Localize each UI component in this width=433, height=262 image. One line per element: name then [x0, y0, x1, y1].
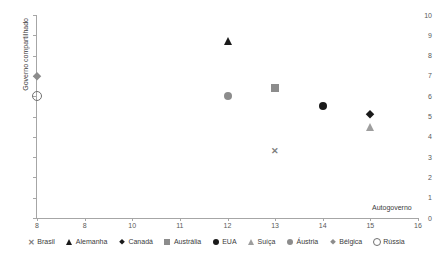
x-tick-label: 13: [260, 222, 290, 229]
y-tick-label: 6: [410, 93, 432, 100]
y-tick-label: 3: [410, 154, 432, 161]
x-axis-label: Autogoverno: [372, 204, 412, 211]
y-tick-mark: [33, 56, 36, 57]
data-point: [224, 37, 232, 45]
triangle-marker-icon: [248, 238, 255, 245]
y-tick-label: 2: [410, 174, 432, 181]
legend-item-label: Rússia: [383, 238, 404, 245]
data-point: [271, 84, 279, 92]
data-point: [32, 91, 42, 101]
x-tick-label: 14: [308, 222, 338, 229]
legend-item[interactable]: Suíça: [248, 238, 276, 245]
y-tick-mark: [33, 157, 36, 158]
legend-item[interactable]: Bélgica: [329, 238, 362, 245]
x-tick-mark: [37, 218, 38, 221]
y-tick-mark: [33, 137, 36, 138]
data-point: ✕: [271, 147, 279, 155]
data-point: [366, 110, 374, 118]
y-tick-mark: [33, 177, 36, 178]
legend-item[interactable]: Canadá: [118, 238, 153, 245]
x-tick-label: 10: [117, 222, 147, 229]
y-axis-label: Governo compartilhado: [22, 18, 29, 91]
legend-item-label: Bélgica: [339, 238, 362, 245]
legend-item[interactable]: Áustria: [286, 238, 318, 245]
triangle-marker-icon: [66, 238, 73, 245]
square-marker-icon: [164, 238, 171, 245]
circle-marker-icon: [286, 238, 293, 245]
chart-legend: ✕BrasilAlemanhaCanadáAustráliaEUASuíçaÁu…: [0, 238, 432, 245]
x-tick-mark: [418, 218, 419, 221]
legend-item[interactable]: ✕Brasil: [27, 238, 55, 245]
x-tick-mark: [180, 218, 181, 221]
legend-item-label: Áustria: [296, 238, 318, 245]
y-tick-mark: [33, 15, 36, 16]
diamond-marker-icon: [118, 238, 125, 245]
y-tick-label: 8: [410, 52, 432, 59]
diamond-marker-icon: [329, 238, 336, 245]
x-tick-label: 8: [22, 222, 52, 229]
y-tick-label: 10: [410, 12, 432, 19]
x-tick-mark: [228, 218, 229, 221]
y-tick-label: 0: [410, 215, 432, 222]
x-tick-label: 8: [70, 222, 100, 229]
y-tick-mark: [33, 218, 36, 219]
y-tick-mark: [33, 198, 36, 199]
circle-marker-icon: [212, 238, 219, 245]
x-tick-mark: [132, 218, 133, 221]
y-tick-label: 1: [410, 194, 432, 201]
x-tick-mark: [275, 218, 276, 221]
data-point: [224, 92, 232, 100]
y-tick-label: 4: [410, 133, 432, 140]
data-point: [319, 102, 327, 110]
legend-item[interactable]: Alemanha: [66, 238, 108, 245]
legend-item-label: Suíça: [258, 238, 276, 245]
y-tick-label: 5: [410, 113, 432, 120]
y-tick-mark: [33, 35, 36, 36]
x-tick-mark: [370, 218, 371, 221]
y-tick-label: 9: [410, 32, 432, 39]
y-axis-line: [36, 15, 37, 219]
legend-item-label: Canadá: [128, 238, 153, 245]
open-circle-marker-icon: [373, 238, 380, 245]
legend-item[interactable]: Austrália: [164, 238, 201, 245]
legend-item-label: Alemanha: [76, 238, 108, 245]
y-tick-label: 7: [410, 72, 432, 79]
x-tick-label: 11: [165, 222, 195, 229]
data-point: [33, 72, 41, 80]
data-point: [366, 123, 374, 131]
legend-item-label: Austrália: [174, 238, 201, 245]
legend-item-label: EUA: [222, 238, 236, 245]
x-marker-icon: ✕: [27, 238, 34, 245]
legend-item-label: Brasil: [37, 238, 55, 245]
legend-item[interactable]: Rússia: [373, 238, 404, 245]
x-tick-mark: [85, 218, 86, 221]
x-tick-label: 16: [403, 222, 433, 229]
x-tick-label: 12: [213, 222, 243, 229]
legend-item[interactable]: EUA: [212, 238, 236, 245]
x-tick-label: 15: [355, 222, 385, 229]
x-tick-mark: [323, 218, 324, 221]
y-tick-mark: [33, 117, 36, 118]
